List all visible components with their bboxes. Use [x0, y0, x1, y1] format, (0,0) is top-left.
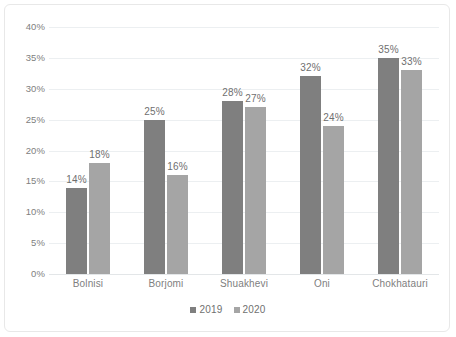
bar-group: 28%27% [205, 27, 283, 274]
bar-value-label: 18% [89, 149, 110, 160]
bar-group: 25%16% [127, 27, 205, 274]
plot-area: 14%18%25%16%28%27%32%24%35%33% [49, 27, 439, 274]
bar-value-label: 32% [300, 62, 321, 73]
bar-value-label: 33% [401, 56, 422, 67]
y-axis-tick-label: 35% [9, 53, 45, 63]
y-axis-tick-label: 15% [9, 176, 45, 186]
bar-value-label: 14% [66, 174, 87, 185]
y-axis-tick-label: 20% [9, 146, 45, 156]
bar-rect: 18% [89, 163, 110, 274]
legend-item-2019[interactable]: 2019 [190, 304, 222, 315]
bar-rect: 32% [300, 76, 321, 274]
square-marker [234, 307, 240, 313]
gridline [49, 274, 439, 275]
y-axis-tick-label: 30% [9, 84, 45, 94]
legend-item-2020[interactable]: 2020 [234, 304, 266, 315]
chart-legend: 20192020 [5, 304, 451, 315]
bar-group: 14%18% [49, 27, 127, 274]
bar-rect: 35% [378, 58, 399, 274]
legend-item-label: 2019 [199, 304, 222, 315]
y-axis-tick-label: 25% [9, 115, 45, 125]
legend-item-label: 2020 [243, 304, 266, 315]
x-axis-tick-label: Shuakhevi [205, 277, 283, 291]
x-axis-tick-label: Chokhatauri [361, 277, 439, 291]
bar-rect: 24% [323, 126, 344, 274]
x-axis: BolnisiBorjomiShuakheviOniChokhatauri [49, 277, 439, 295]
bar-rect: 28% [222, 101, 243, 274]
bar-value-label: 24% [323, 112, 344, 123]
bar-value-label: 27% [245, 93, 266, 104]
y-axis-tick-label: 40% [9, 22, 45, 32]
bar-value-label: 25% [144, 106, 165, 117]
chart-container: 0%5%10%15%20%25%30%35%40% 14%18%25%16%28… [4, 4, 450, 332]
bar-rect: 16% [167, 175, 188, 274]
bar-rect: 14% [66, 188, 87, 274]
x-axis-tick-label: Bolnisi [49, 277, 127, 291]
bar-rect: 27% [245, 107, 266, 274]
bar-value-label: 16% [167, 161, 188, 172]
x-axis-tick-label: Borjomi [127, 277, 205, 291]
x-axis-tick-label: Oni [283, 277, 361, 291]
bar-group: 35%33% [361, 27, 439, 274]
y-axis-tick-label: 5% [9, 238, 45, 248]
bar-group: 32%24% [283, 27, 361, 274]
bar-value-label: 28% [222, 87, 243, 98]
y-axis-tick-label: 0% [9, 269, 45, 279]
y-axis-tick-label: 10% [9, 207, 45, 217]
y-axis: 0%5%10%15%20%25%30%35%40% [5, 27, 45, 274]
bar-rect: 25% [144, 120, 165, 274]
bar-rect: 33% [401, 70, 422, 274]
square-marker [190, 307, 196, 313]
bar-value-label: 35% [378, 44, 399, 55]
